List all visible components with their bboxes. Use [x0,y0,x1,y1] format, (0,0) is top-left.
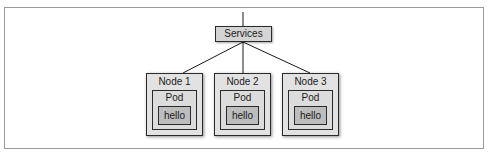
node-label: Node 3 [283,76,338,88]
services-label: Services [224,28,262,39]
services-box: Services [215,26,272,42]
pod-label: Pod [221,92,264,104]
pod-box: Pod hello [288,90,333,130]
connector-node-1 [183,42,243,73]
node-1-box: Node 1 Pod hello [146,73,203,136]
container-label: hello [300,110,321,121]
container-label: hello [164,110,185,121]
pod-box: Pod hello [152,90,197,130]
container-label: hello [232,110,253,121]
node-label: Node 2 [215,76,270,88]
container-box: hello [226,106,259,125]
connector-node-3 [243,42,310,73]
node-3-box: Node 3 Pod hello [282,73,339,136]
node-2-box: Node 2 Pod hello [214,73,271,136]
pod-box: Pod hello [220,90,265,130]
pod-label: Pod [289,92,332,104]
node-label: Node 1 [147,76,202,88]
container-box: hello [294,106,327,125]
pod-label: Pod [153,92,196,104]
container-box: hello [158,106,191,125]
